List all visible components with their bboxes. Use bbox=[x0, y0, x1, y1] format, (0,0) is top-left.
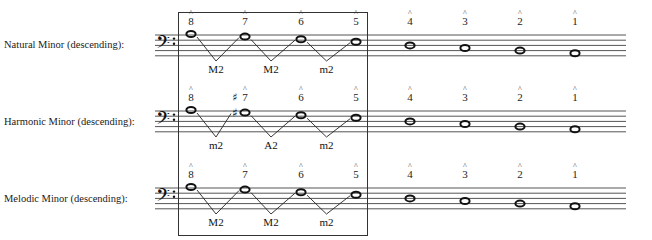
clef-dot bbox=[173, 196, 175, 198]
scale-degree-caret: ^ bbox=[408, 9, 412, 18]
whole-note bbox=[460, 121, 469, 127]
scale-degree-caret: ^ bbox=[463, 85, 467, 94]
scale-degree-caret: ^ bbox=[408, 85, 412, 94]
scale-degree-caret: ^ bbox=[408, 162, 412, 171]
clef-dot bbox=[173, 37, 175, 39]
scale-degree-caret: ^ bbox=[573, 162, 577, 171]
clef-dot bbox=[173, 43, 175, 45]
bass-clef-icon: 𝄢 bbox=[156, 108, 170, 133]
whole-note bbox=[570, 50, 579, 56]
clef-dot bbox=[173, 119, 175, 121]
bass-clef-icon: 𝄢 bbox=[156, 185, 170, 210]
scale-degree-caret: ^ bbox=[573, 85, 577, 94]
upper-tetrachord-highlight-box bbox=[178, 12, 368, 236]
scale-degree-caret: ^ bbox=[463, 162, 467, 171]
scale-degree-caret: ^ bbox=[573, 9, 577, 18]
bass-clef-icon: 𝄢 bbox=[156, 32, 170, 57]
clef-dot bbox=[173, 190, 175, 192]
whole-note bbox=[570, 126, 579, 132]
whole-note bbox=[460, 198, 469, 204]
whole-note bbox=[460, 45, 469, 51]
scale-degree-caret: ^ bbox=[463, 9, 467, 18]
scale-degree-caret: ^ bbox=[518, 162, 522, 171]
scale-degree-caret: ^ bbox=[518, 9, 522, 18]
clef-dot bbox=[173, 113, 175, 115]
scale-degree-caret: ^ bbox=[518, 85, 522, 94]
whole-note bbox=[570, 203, 579, 209]
